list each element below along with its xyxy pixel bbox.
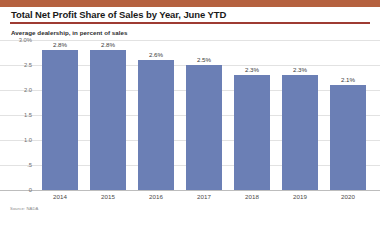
x-axis-tick-label: 2019 bbox=[276, 193, 324, 200]
title-divider bbox=[10, 22, 370, 24]
header-accent-band bbox=[0, 0, 380, 7]
bar[interactable] bbox=[138, 60, 174, 190]
bar-group[interactable]: 2.6% bbox=[132, 40, 180, 190]
bar-value-label: 2.5% bbox=[180, 56, 228, 63]
y-axis-tick-label: 1.0 bbox=[6, 137, 32, 143]
x-axis-line bbox=[0, 190, 380, 191]
chart-card: Total Net Profit Share of Sales by Year,… bbox=[0, 0, 380, 226]
y-axis-tick-label: 0 bbox=[6, 187, 32, 193]
page-title: Total Net Profit Share of Sales by Year,… bbox=[11, 9, 226, 20]
y-axis-tick-label: 3.0% bbox=[6, 37, 32, 43]
x-axis-tick-labels: 2014201520162017201820192020 bbox=[36, 193, 372, 205]
bar-group[interactable]: 2.8% bbox=[36, 40, 84, 190]
bar-group[interactable]: 2.3% bbox=[228, 40, 276, 190]
bar-value-label: 2.8% bbox=[84, 41, 132, 48]
bar-value-label: 2.3% bbox=[228, 66, 276, 73]
chart-subtitle: Average dealership, in percent of sales bbox=[11, 29, 128, 36]
bar-value-label: 2.3% bbox=[276, 66, 324, 73]
bar[interactable] bbox=[90, 50, 126, 190]
bar[interactable] bbox=[42, 50, 78, 190]
x-axis-tick-label: 2018 bbox=[228, 193, 276, 200]
x-axis-tick-label: 2016 bbox=[132, 193, 180, 200]
bar-value-label: 2.6% bbox=[132, 51, 180, 58]
y-axis-tick-label: 2.0 bbox=[6, 87, 32, 93]
x-axis-tick-label: 2014 bbox=[36, 193, 84, 200]
plot-area: 3.0%2.52.01.51.0.50 2.8%2.8%2.6%2.5%2.3%… bbox=[0, 40, 380, 200]
bar-value-label: 2.1% bbox=[324, 76, 372, 83]
bar-series: 2.8%2.8%2.6%2.5%2.3%2.3%2.1% bbox=[36, 40, 372, 190]
x-axis-tick-label: 2020 bbox=[324, 193, 372, 200]
bar-group[interactable]: 2.5% bbox=[180, 40, 228, 190]
x-axis-tick-label: 2017 bbox=[180, 193, 228, 200]
y-axis-tick-label: 1.5 bbox=[6, 112, 32, 118]
bar-group[interactable]: 2.8% bbox=[84, 40, 132, 190]
x-axis-tick-label: 2015 bbox=[84, 193, 132, 200]
bar-group[interactable]: 2.3% bbox=[276, 40, 324, 190]
y-axis-tick-label: 2.5 bbox=[6, 62, 32, 68]
y-axis-tick-label: .5 bbox=[6, 162, 32, 168]
source-note: Source: NADA bbox=[10, 206, 38, 211]
bar[interactable] bbox=[234, 75, 270, 190]
bar[interactable] bbox=[282, 75, 318, 190]
bar[interactable] bbox=[330, 85, 366, 190]
bar[interactable] bbox=[186, 65, 222, 190]
bar-value-label: 2.8% bbox=[36, 41, 84, 48]
bar-group[interactable]: 2.1% bbox=[324, 40, 372, 190]
